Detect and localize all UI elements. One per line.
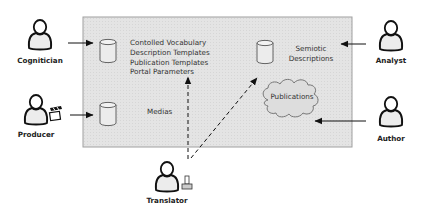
actor-author-label: Author <box>377 134 405 143</box>
system-boundary-box <box>83 17 352 147</box>
actor-translator[interactable]: Translator <box>146 162 192 205</box>
person-icon <box>380 21 402 51</box>
database-icon <box>100 39 116 62</box>
actor-analyst[interactable]: Analyst <box>376 21 407 65</box>
actor-author[interactable]: Author <box>377 97 405 143</box>
person-icon <box>29 20 51 50</box>
actor-analyst-label: Analyst <box>376 56 407 65</box>
store-resources-line-4: Portal Parameters <box>130 67 194 76</box>
actor-cognitician[interactable]: Cognitician <box>17 20 63 65</box>
actor-producer[interactable]: Producer <box>18 95 62 139</box>
person-icon <box>380 97 402 127</box>
store-resources-line-1: Contolled Vocabulary <box>130 38 207 47</box>
actor-translator-label: Translator <box>146 196 188 205</box>
store-semiotic-line-1: Semiotic <box>295 44 326 53</box>
store-semiotic-line-2: Descriptions <box>289 54 334 63</box>
actor-cognitician-label: Cognitician <box>17 56 63 65</box>
store-resources-line-2: Description Templates <box>130 48 210 57</box>
diagram-canvas: Contolled Vocabulary Description Templat… <box>0 0 423 215</box>
actor-producer-label: Producer <box>18 130 55 139</box>
cloud-publications[interactable]: Publications <box>263 79 318 117</box>
clapperboard-icon <box>49 106 62 121</box>
database-icon <box>100 102 116 125</box>
store-resources-line-3: Publication Templates <box>130 58 209 67</box>
person-icon <box>25 95 47 125</box>
store-semiotic-descriptions[interactable]: Semiotic Descriptions <box>257 40 334 63</box>
database-icon <box>257 40 273 63</box>
person-icon <box>156 162 178 192</box>
cloud-publications-label: Publications <box>270 92 313 101</box>
printer-icon <box>182 176 192 189</box>
store-medias-label: Medias <box>147 107 173 116</box>
